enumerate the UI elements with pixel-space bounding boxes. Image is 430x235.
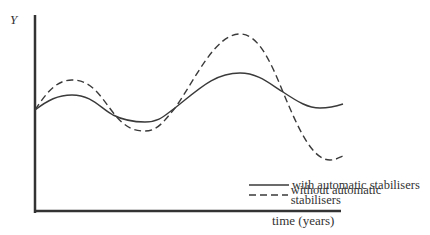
legend-label: without automatic stabilisers <box>291 185 430 205</box>
legend: with automatic stabilisers without autom… <box>249 180 430 200</box>
series-with-stabilisers <box>35 73 343 122</box>
y-axis-label: Y <box>10 12 17 28</box>
dashed-line-swatch-icon <box>249 192 288 198</box>
x-axis-label: time (years) <box>272 213 334 229</box>
solid-line-swatch-icon <box>249 182 289 188</box>
legend-item-without-stabilisers: without automatic stabilisers <box>249 190 430 200</box>
